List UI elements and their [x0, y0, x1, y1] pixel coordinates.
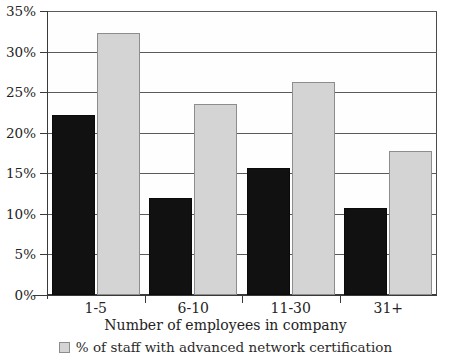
y-axis-line: [47, 11, 48, 299]
x-axis-title: Number of employees in company: [0, 317, 451, 334]
y-tick-label: 5%: [0, 247, 36, 261]
bar-dark-series-6-10: [149, 198, 192, 295]
legend-label-light: % of staff with advanced network certifi…: [76, 340, 392, 355]
bar-light-series-11-30: [292, 82, 335, 295]
bar-dark-series-11-30: [247, 168, 290, 295]
bar-light-series-1-5: [97, 33, 140, 295]
legend-swatch-light: [59, 342, 70, 353]
x-category-label-6-10: 6-10: [153, 300, 233, 316]
y-tick-mark: [40, 52, 47, 53]
x-category-label-1-5: 1-5: [56, 300, 136, 316]
y-tick-mark: [40, 254, 47, 255]
y-tick-mark: [40, 173, 47, 174]
y-tick-label: 15%: [0, 166, 36, 180]
y-tick-label: 30%: [0, 45, 36, 59]
y-tick-label: 35%: [0, 4, 36, 18]
bar-chart-figure: 0%5%10%15%20%25%30%35% 1-56-1011-3031+ N…: [0, 0, 451, 356]
y-tick-label: 25%: [0, 85, 36, 99]
y-tick-mark: [40, 92, 47, 93]
x-tick-mark: [145, 295, 146, 303]
bar-light-series-31+: [389, 151, 432, 295]
y-tick-label: 20%: [0, 126, 36, 140]
y-tick-label: 10%: [0, 207, 36, 221]
y-tick-mark: [40, 133, 47, 134]
gridline-35%: [47, 11, 437, 12]
bar-light-series-6-10: [194, 104, 237, 295]
bar-dark-series-1-5: [52, 115, 95, 295]
y-tick-mark: [40, 214, 47, 215]
x-category-label-11-30: 11-30: [251, 300, 331, 316]
chart-legend: % of staff with advanced network certifi…: [0, 340, 451, 355]
x-axis-line: [33, 295, 437, 296]
y-tick-mark: [40, 11, 47, 12]
y-tick-label: 0%: [0, 288, 36, 302]
x-category-label-31+: 31+: [348, 300, 428, 316]
x-tick-mark: [340, 295, 341, 303]
x-tick-mark: [242, 295, 243, 303]
bar-dark-series-31+: [344, 208, 387, 295]
